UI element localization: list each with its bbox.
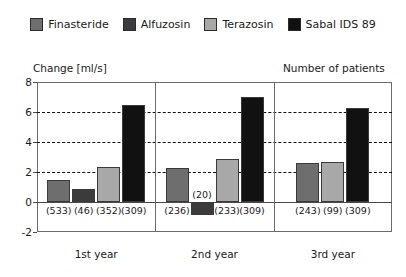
y-tick-label: 6 — [25, 106, 32, 118]
legend-label: Terazosin — [222, 19, 273, 30]
n-label: (233) — [214, 205, 240, 216]
n-label: (99) — [323, 205, 343, 216]
gridline — [37, 112, 392, 113]
chart-legend: FinasterideAlfuzosinTerazosinSabal IDS 8… — [0, 18, 406, 31]
legend-label: Finasteride — [48, 19, 108, 30]
n-label: (309) — [121, 205, 147, 216]
legend-swatch-icon — [30, 18, 43, 31]
bar-terazosin-1st-year[interactable] — [97, 167, 120, 202]
y-tick-label: 0 — [25, 196, 32, 208]
x-group-label-2nd-year: 2nd year — [191, 248, 238, 260]
n-label: (20) — [192, 189, 212, 200]
bar-sabal-ids-89-2nd-year[interactable] — [241, 97, 264, 202]
legend-label: Sabal IDS 89 — [306, 19, 376, 30]
y-tick-label: -2 — [22, 226, 32, 238]
y-axis-title-left: Change [ml/s] — [33, 62, 107, 74]
bar-alfuzosin-2nd-year[interactable] — [191, 202, 214, 215]
n-label: (236) — [164, 205, 190, 216]
bar-terazosin-2nd-year[interactable] — [216, 159, 239, 202]
n-label: (309) — [239, 205, 265, 216]
zero-baseline — [37, 202, 392, 203]
x-group-label-1st-year: 1st year — [75, 248, 118, 260]
bar-finasteride-1st-year[interactable] — [47, 180, 70, 203]
legend-swatch-icon — [123, 18, 136, 31]
legend-item-terazosin[interactable]: Terazosin — [204, 18, 273, 31]
bar-terazosin-3rd-year[interactable] — [321, 162, 344, 203]
legend-item-alfuzosin[interactable]: Alfuzosin — [123, 18, 191, 31]
n-label: (243) — [295, 205, 321, 216]
bar-sabal-ids-89-1st-year[interactable] — [122, 105, 145, 203]
panel-separator — [155, 82, 156, 232]
bar-finasteride-2nd-year[interactable] — [166, 168, 189, 202]
y-tick-label: 4 — [25, 136, 32, 148]
y-tick-mark — [33, 232, 37, 233]
panel-separator — [274, 82, 275, 232]
bar-alfuzosin-1st-year[interactable] — [72, 189, 95, 202]
y-tick-label: 8 — [25, 76, 32, 88]
y-axis-title-right: Number of patients — [283, 62, 385, 74]
bar-sabal-ids-89-3rd-year[interactable] — [346, 108, 369, 202]
legend-label: Alfuzosin — [141, 19, 191, 30]
legend-item-finasteride[interactable]: Finasteride — [30, 18, 108, 31]
legend-item-sabal-ids-89[interactable]: Sabal IDS 89 — [288, 18, 376, 31]
n-label: (352) — [96, 205, 122, 216]
n-label: (46) — [74, 205, 94, 216]
y-axis: 86420-2 — [0, 82, 37, 232]
y-tick-label: 2 — [25, 166, 32, 178]
x-group-label-3rd-year: 3rd year — [311, 248, 355, 260]
gridline — [37, 142, 392, 143]
legend-swatch-icon — [204, 18, 217, 31]
bar-chart: FinasterideAlfuzosinTerazosinSabal IDS 8… — [0, 0, 406, 277]
n-label: (309) — [345, 205, 371, 216]
legend-swatch-icon — [288, 18, 301, 31]
bar-finasteride-3rd-year[interactable] — [296, 163, 319, 202]
n-label: (533) — [46, 205, 72, 216]
